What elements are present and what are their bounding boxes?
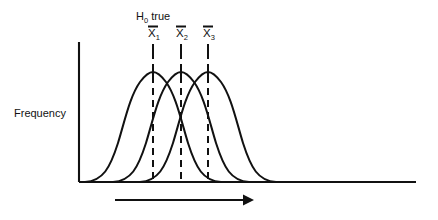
- svg-text:X2: X2: [176, 27, 188, 42]
- mean-label-2: X2: [176, 27, 188, 43]
- svg-text:X3: X3: [203, 27, 215, 42]
- h0-suffix: true: [148, 10, 170, 22]
- direction-arrow: [115, 195, 254, 206]
- y-axis-label: Frequency: [14, 107, 66, 119]
- svg-text:H0 true: H0 true: [136, 10, 170, 25]
- mean-subscript-2: 2: [184, 33, 188, 42]
- arrow-head-icon: [243, 195, 254, 206]
- mean-label-3: X3: [203, 27, 215, 43]
- figure-container: Frequency H0 true X1 X2 X3: [0, 0, 438, 220]
- sampling-distributions-chart: Frequency H0 true X1 X2 X3: [0, 0, 438, 220]
- h0-symbol: H: [136, 10, 144, 22]
- mean-label-1: X1: [148, 27, 160, 43]
- h0-true-annotation: H0 true: [136, 10, 170, 25]
- mean-subscript-1: 1: [156, 33, 160, 42]
- mean-subscript-3: 3: [211, 33, 215, 42]
- svg-text:X1: X1: [148, 27, 160, 42]
